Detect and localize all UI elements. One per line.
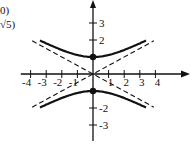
y-axis-arrow-icon (90, 0, 96, 8)
x-tick-label: -1 (69, 76, 78, 88)
y-tick-label: -3 (99, 119, 109, 131)
x-tick-label: -3 (38, 76, 48, 88)
vertex-point (90, 54, 96, 60)
x-tick-label: 1 (108, 76, 114, 88)
x-tick-label: 2 (123, 76, 129, 88)
x-tick-label: 3 (139, 76, 145, 88)
y-tick-label: 3 (99, 17, 105, 29)
y-tick-label: -2 (99, 102, 108, 114)
x-tick-label: -4 (22, 76, 32, 88)
x-axis-arrow-icon (181, 71, 190, 78)
x-tick-label: 4 (155, 76, 161, 88)
hyperbola-plot: -4-3-2-1123432-2-3 (0, 0, 192, 146)
y-tick-label: 2 (99, 34, 105, 46)
x-tick-label: -2 (53, 76, 62, 88)
vertex-point (90, 88, 96, 94)
